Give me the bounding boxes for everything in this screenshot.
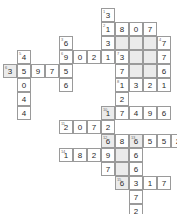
- cell-digit: 3: [116, 53, 128, 63]
- grid-cell[interactable]: 0: [73, 120, 87, 134]
- grid-cell[interactable]: 4: [17, 92, 31, 106]
- grid-cell[interactable]: [115, 162, 129, 176]
- grid-cell[interactable]: 8: [73, 148, 87, 162]
- grid-cell[interactable]: [129, 50, 143, 64]
- cell-digit: 4: [18, 109, 30, 119]
- cell-digit: 3: [102, 39, 114, 49]
- grid-cell[interactable]: 1: [157, 78, 171, 92]
- cell-digit: 2: [172, 137, 177, 147]
- grid-cell[interactable]: 6: [129, 148, 143, 162]
- grid-cell[interactable]: 13: [101, 8, 115, 22]
- cell-digit: 6: [60, 39, 72, 49]
- grid-cell[interactable]: 54: [17, 50, 31, 64]
- grid-cell[interactable]: 8: [115, 22, 129, 36]
- grid-cell[interactable]: 8: [115, 134, 129, 148]
- cell-digit: 6: [116, 179, 128, 189]
- grid-cell[interactable]: 0: [73, 50, 87, 64]
- grid-cell[interactable]: 4: [129, 106, 143, 120]
- grid-cell[interactable]: 9: [31, 64, 45, 78]
- grid-cell[interactable]: 141: [59, 148, 73, 162]
- grid-cell[interactable]: 9: [101, 148, 115, 162]
- grid-cell[interactable]: 36: [59, 36, 73, 50]
- grid-cell[interactable]: 5: [143, 134, 157, 148]
- grid-cell[interactable]: 136: [129, 134, 143, 148]
- grid-cell[interactable]: 2: [87, 148, 101, 162]
- grid-cell[interactable]: [129, 36, 143, 50]
- cell-digit: 9: [60, 53, 72, 63]
- cell-digit: 7: [88, 123, 100, 133]
- grid-cell[interactable]: 5: [59, 64, 73, 78]
- grid-cell[interactable]: 112: [59, 120, 73, 134]
- grid-cell[interactable]: 1: [143, 176, 157, 190]
- cell-digit: 7: [144, 25, 156, 35]
- grid-cell[interactable]: 21: [101, 22, 115, 36]
- grid-cell[interactable]: 7: [143, 22, 157, 36]
- grid-cell[interactable]: [143, 50, 157, 64]
- cell-digit: 3: [130, 81, 142, 91]
- grid-cell[interactable]: 7: [45, 64, 59, 78]
- grid-cell[interactable]: [115, 36, 129, 50]
- grid-cell[interactable]: 2: [101, 120, 115, 134]
- grid-cell[interactable]: 7: [115, 106, 129, 120]
- grid-cell[interactable]: 4: [17, 106, 31, 120]
- grid-cell[interactable]: 7: [157, 176, 171, 190]
- grid-cell[interactable]: 6: [59, 78, 73, 92]
- cell-digit: 7: [130, 193, 142, 203]
- grid-cell[interactable]: 2: [87, 50, 101, 64]
- grid-cell[interactable]: 73: [115, 50, 129, 64]
- grid-cell[interactable]: 6: [157, 106, 171, 120]
- grid-cell[interactable]: 63: [3, 64, 17, 78]
- grid-cell[interactable]: 6: [157, 64, 171, 78]
- grid-cell[interactable]: [143, 64, 157, 78]
- grid-cell[interactable]: 7: [101, 162, 115, 176]
- grid-cell[interactable]: [129, 64, 143, 78]
- grid-cell[interactable]: 2: [115, 92, 129, 106]
- cell-digit: 4: [18, 95, 30, 105]
- grid-cell[interactable]: 2: [129, 204, 143, 214]
- grid-cell[interactable]: 7: [157, 50, 171, 64]
- number-crossword-grid[interactable]: 1321807363475469021737635975760681321424…: [0, 0, 177, 214]
- cell-digit: 9: [32, 67, 44, 77]
- cell-digit: 7: [158, 53, 170, 63]
- grid-cell[interactable]: 2: [171, 134, 177, 148]
- grid-cell[interactable]: 3: [101, 36, 115, 50]
- cell-digit: 7: [46, 67, 58, 77]
- grid-cell[interactable]: 6: [129, 162, 143, 176]
- cell-digit: 9: [144, 109, 156, 119]
- grid-cell[interactable]: 126: [101, 134, 115, 148]
- grid-cell[interactable]: 9: [143, 106, 157, 120]
- grid-cell[interactable]: 0: [129, 22, 143, 36]
- grid-cell[interactable]: [115, 148, 129, 162]
- cell-digit: 2: [116, 95, 128, 105]
- cell-digit: 6: [130, 151, 142, 161]
- grid-cell[interactable]: 7: [129, 190, 143, 204]
- cell-digit: 0: [130, 25, 142, 35]
- grid-cell[interactable]: 81: [115, 78, 129, 92]
- grid-cell[interactable]: 7: [87, 120, 101, 134]
- grid-cell[interactable]: 5: [17, 64, 31, 78]
- grid-cell[interactable]: 3: [129, 78, 143, 92]
- cell-digit: 1: [102, 109, 114, 119]
- cell-digit: 2: [130, 207, 142, 214]
- cell-digit: 8: [116, 25, 128, 35]
- cell-digit: 6: [158, 67, 170, 77]
- cell-digit: 1: [102, 53, 114, 63]
- grid-cell[interactable]: 156: [115, 176, 129, 190]
- grid-cell[interactable]: 69: [59, 50, 73, 64]
- grid-cell[interactable]: 2: [143, 78, 157, 92]
- cell-digit: 6: [158, 109, 170, 119]
- cell-digit: 7: [158, 179, 170, 189]
- grid-cell[interactable]: 5: [157, 134, 171, 148]
- grid-cell[interactable]: 101: [101, 106, 115, 120]
- cell-digit: 1: [158, 81, 170, 91]
- grid-cell[interactable]: 47: [157, 36, 171, 50]
- cell-digit: 3: [4, 67, 16, 77]
- grid-cell[interactable]: [143, 36, 157, 50]
- grid-cell[interactable]: 1: [101, 50, 115, 64]
- cell-digit: 2: [88, 151, 100, 161]
- grid-cell[interactable]: 0: [17, 78, 31, 92]
- cell-digit: 1: [144, 179, 156, 189]
- cell-digit: 7: [116, 109, 128, 119]
- grid-cell[interactable]: 7: [115, 64, 129, 78]
- grid-cell[interactable]: 3: [129, 176, 143, 190]
